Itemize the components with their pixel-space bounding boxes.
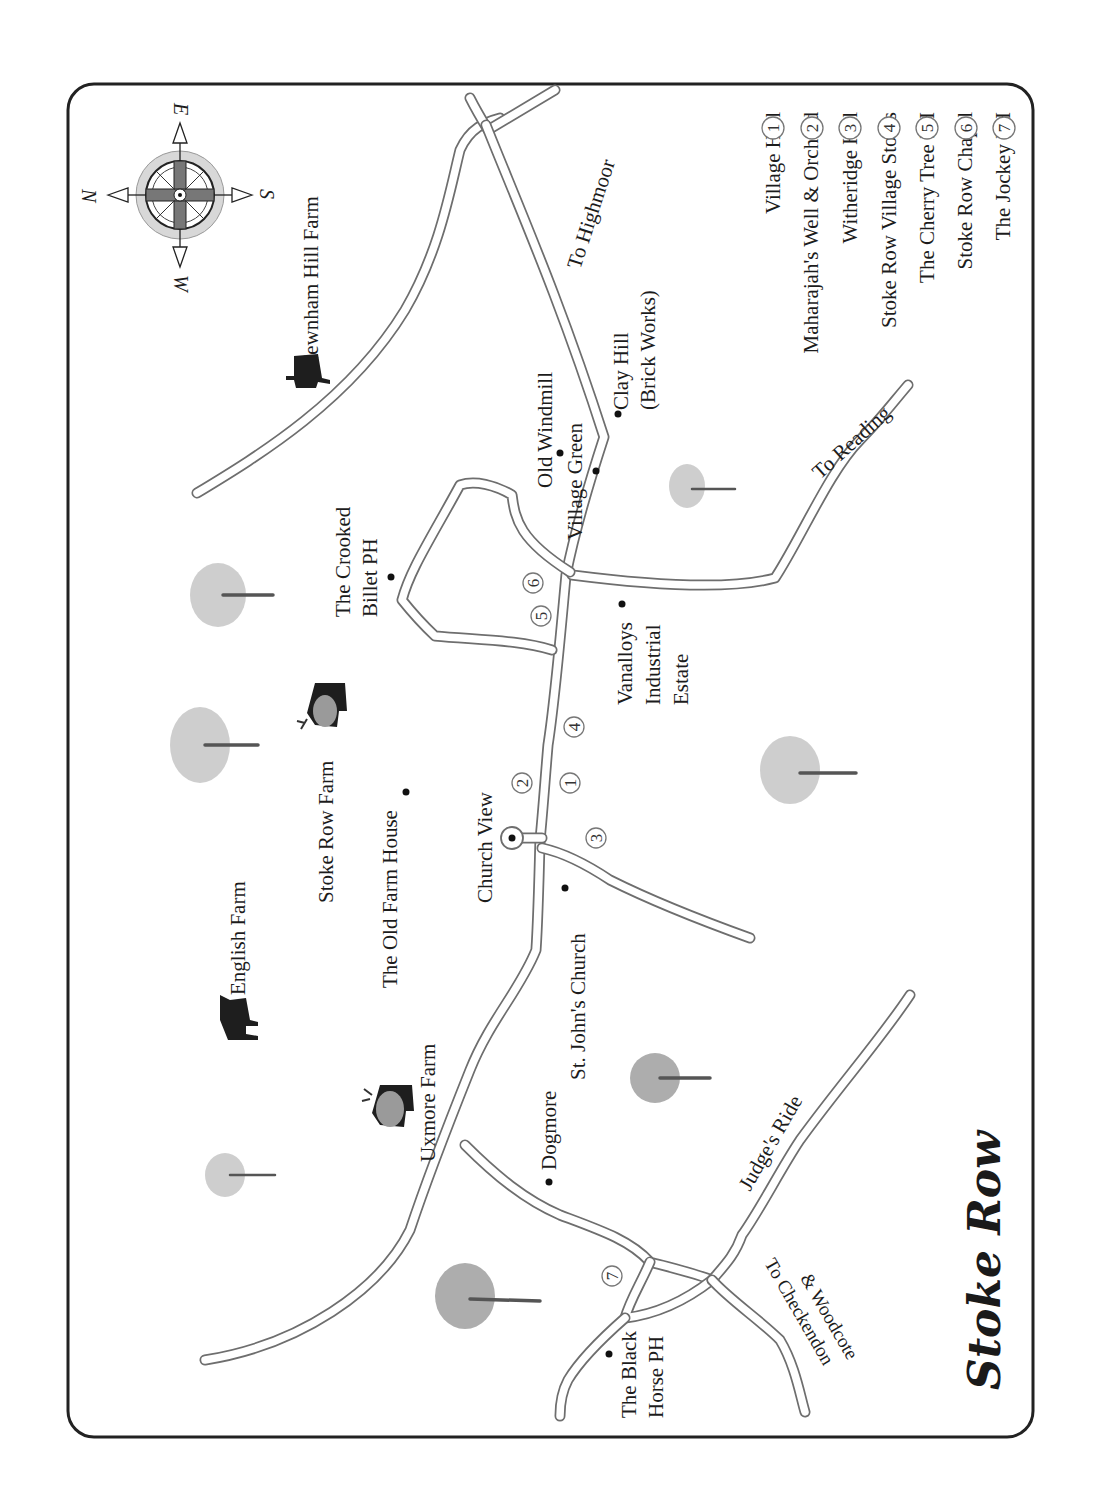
svg-text:2: 2 xyxy=(513,779,532,788)
marker-5: 5 xyxy=(531,606,551,626)
compass-south-label: S xyxy=(256,189,278,199)
svg-text:5: 5 xyxy=(532,612,551,621)
label-church-view: Church View xyxy=(473,791,497,903)
label-vanalloys-2: Industrial xyxy=(641,624,665,705)
label-old-windmill: Old Windmill xyxy=(533,372,557,488)
svg-text:Maharajah's Well & Orchard: Maharajah's Well & Orchard xyxy=(799,112,823,354)
marker-3: 3 xyxy=(586,828,606,848)
compass-east-label: E xyxy=(170,102,192,115)
legend-item: Maharajah's Well & Orchard 2 xyxy=(799,112,823,354)
village-green-marker xyxy=(593,468,600,475)
st-johns-church-marker xyxy=(562,885,569,892)
legend-item: The Cherry Tree PH 5 xyxy=(915,112,939,283)
church-view-marker xyxy=(509,835,516,842)
label-clay-hill: Clay Hill xyxy=(609,332,633,410)
vanalloys-marker xyxy=(619,601,626,608)
label-st-johns-church: St. John's Church xyxy=(566,933,590,1080)
svg-text:7: 7 xyxy=(603,1271,622,1280)
marker-4: 4 xyxy=(564,717,584,737)
svg-text:3: 3 xyxy=(587,834,606,843)
clay-hill-marker xyxy=(615,411,622,418)
label-black-horse-1: The Black xyxy=(617,1331,641,1418)
crooked-billet-marker xyxy=(388,574,395,581)
compass-west-label: W xyxy=(170,275,192,294)
svg-text:5: 5 xyxy=(918,124,937,133)
dogmore-marker xyxy=(546,1179,553,1186)
svg-text:1: 1 xyxy=(764,124,783,133)
compass-north-label: N xyxy=(78,188,100,204)
old-farm-house-marker xyxy=(403,789,410,796)
marker-2: 2 xyxy=(512,773,532,793)
village-map: N E S W Village Hall 1 Maharajah's Well … xyxy=(0,0,1098,1500)
label-dogmore: Dogmore xyxy=(537,1091,561,1170)
svg-text:6: 6 xyxy=(957,124,976,133)
legend-item: Village Hall 1 xyxy=(761,112,785,214)
label-crooked-billet-2: Billet PH xyxy=(358,538,382,617)
label-uxmore-farm: Uxmore Farm xyxy=(416,1044,440,1162)
marker-6: 6 xyxy=(523,573,543,593)
label-black-horse-2: Horse PH xyxy=(644,1336,668,1418)
svg-text:4: 4 xyxy=(565,722,584,731)
label-english-farm: English Farm xyxy=(226,881,250,995)
marker-7: 7 xyxy=(602,1266,622,1286)
marker-1: 1 xyxy=(560,773,580,793)
legend-item: Stoke Row Chapel 6 xyxy=(953,112,977,270)
legend-item: Witheridge Hill 3 xyxy=(838,112,862,244)
svg-text:2: 2 xyxy=(803,124,822,133)
svg-text:7: 7 xyxy=(995,123,1014,132)
legend-item: Stoke Row Village Stores 4 xyxy=(877,112,901,328)
label-newnham-hill-farm: Newnham Hill Farm xyxy=(299,196,323,370)
label-vanalloys-1: Vanalloys xyxy=(613,622,637,705)
svg-text:6: 6 xyxy=(524,579,543,588)
black-horse-marker xyxy=(606,1351,613,1358)
label-village-green: Village Green xyxy=(563,422,587,540)
label-brick-works: (Brick Works) xyxy=(636,290,660,410)
svg-text:1: 1 xyxy=(561,779,580,788)
svg-text:Stoke Row Village Stores: Stoke Row Village Stores xyxy=(877,112,901,328)
label-stoke-row-farm: Stoke Row Farm xyxy=(314,761,338,903)
svg-text:4: 4 xyxy=(880,123,899,132)
svg-text:3: 3 xyxy=(841,124,860,133)
label-old-farm-house: The Old Farm House xyxy=(378,810,402,988)
legend-item: The Jockey PH 7 xyxy=(991,112,1015,240)
label-vanalloys-3: Estate xyxy=(669,654,693,705)
map-title: Stoke Row xyxy=(959,1129,1010,1390)
label-crooked-billet-1: The Crooked xyxy=(331,506,355,617)
